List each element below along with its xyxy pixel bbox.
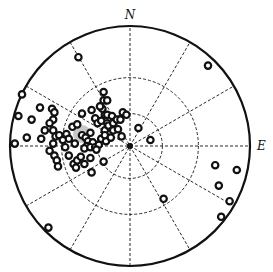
data-point xyxy=(15,113,21,119)
data-point xyxy=(37,104,43,110)
points-layer xyxy=(12,54,240,231)
data-point xyxy=(51,109,57,115)
data-point xyxy=(117,116,123,122)
data-point xyxy=(81,161,87,167)
data-point xyxy=(45,224,51,230)
data-point xyxy=(19,91,25,97)
data-point xyxy=(74,121,80,127)
data-point xyxy=(100,89,106,95)
data-point xyxy=(234,167,240,173)
data-point xyxy=(87,130,93,136)
data-point xyxy=(100,158,106,164)
data-point xyxy=(55,163,61,169)
data-point xyxy=(66,152,72,158)
data-point xyxy=(115,126,121,132)
data-point xyxy=(50,140,56,146)
data-point xyxy=(75,54,81,60)
data-point xyxy=(212,162,218,168)
data-point xyxy=(79,110,85,116)
data-point xyxy=(38,136,44,142)
data-point xyxy=(123,112,129,118)
data-point xyxy=(118,133,124,139)
stereonet-plot: N E xyxy=(0,0,273,272)
data-point xyxy=(226,198,232,204)
center-point xyxy=(127,143,133,149)
data-point xyxy=(88,107,94,113)
data-point xyxy=(216,182,222,188)
data-point xyxy=(73,164,79,170)
data-point xyxy=(24,134,30,140)
data-point xyxy=(104,97,110,103)
data-point xyxy=(218,214,224,220)
data-point xyxy=(87,155,93,161)
data-point xyxy=(88,169,94,175)
data-point xyxy=(97,103,103,109)
data-point xyxy=(160,196,166,202)
data-point xyxy=(60,137,66,143)
data-point xyxy=(78,154,84,160)
data-point xyxy=(62,144,68,150)
data-point xyxy=(46,120,52,126)
data-point xyxy=(42,127,48,133)
data-point xyxy=(135,125,141,131)
data-point xyxy=(12,140,18,146)
data-point xyxy=(108,134,114,140)
data-point xyxy=(72,140,78,146)
data-point xyxy=(28,116,34,122)
north-label: N xyxy=(124,8,136,22)
data-point xyxy=(93,146,99,152)
data-point xyxy=(205,62,211,68)
data-point xyxy=(147,137,153,143)
east-label: E xyxy=(256,139,266,153)
